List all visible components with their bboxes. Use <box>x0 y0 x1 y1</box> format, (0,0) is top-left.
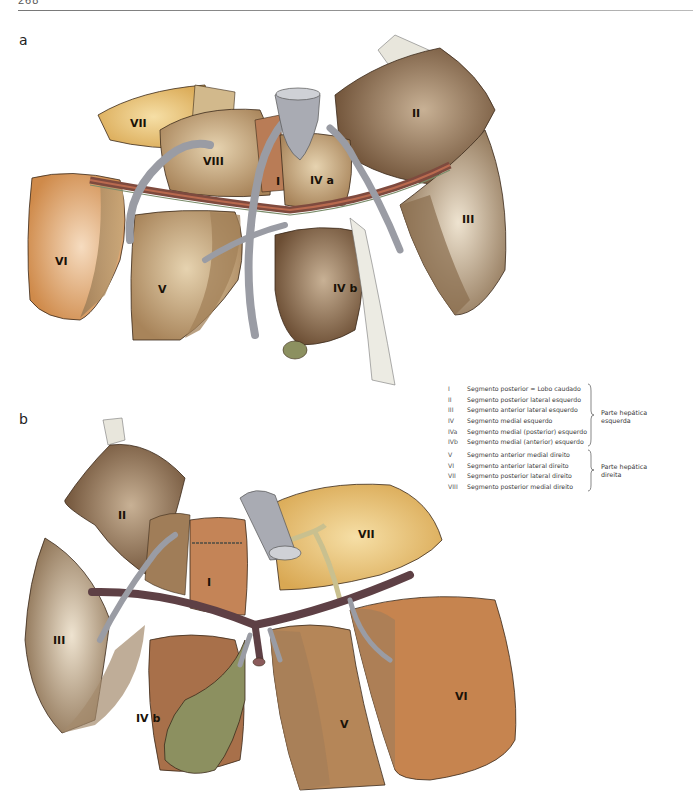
figure-a-segment-IVa: IV a <box>310 174 334 187</box>
figure-a-illustration: VII VIII I IV a II III VI V IV b <box>0 0 693 400</box>
figure-b-segment-IVb: IV b <box>136 712 160 725</box>
figure-b-segment-I: I <box>207 576 211 589</box>
figure-b-segment-III: III <box>53 634 65 647</box>
figure-a-segment-VI: VI <box>55 255 68 268</box>
figure-b-segment-II: II <box>118 509 126 522</box>
figure-b-illustration: II III I VII IV b V VI <box>0 400 693 794</box>
figure-b-segment-V: V <box>340 718 349 731</box>
figure-a-segment-V: V <box>158 283 167 296</box>
figure-b-segment-VII: VII <box>358 528 375 541</box>
figure-a-segment-VIII: VIII <box>203 155 224 168</box>
figure-a-segment-II: II <box>412 107 420 120</box>
figure-a-segment-VII: VII <box>130 117 147 130</box>
figure-a-segment-III: III <box>462 213 474 226</box>
figure-a-segment-I: I <box>276 175 280 188</box>
figure-b-segment-VI: VI <box>455 690 468 703</box>
legend-row: ISegmento posterior = Lobo caudado <box>448 383 693 394</box>
figure-a-segment-IVb: IV b <box>333 282 357 295</box>
